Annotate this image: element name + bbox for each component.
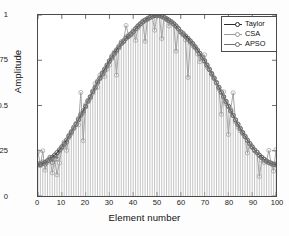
y-tick-label: 0.5 bbox=[0, 102, 8, 110]
figure: 1 0.75 0.5 0.25 0 0 10 20 30 40 50 60 70… bbox=[0, 0, 289, 236]
y-tick-label: 0 bbox=[0, 193, 8, 201]
legend-label: Taylor bbox=[242, 19, 265, 29]
legend: Taylor CSA APSO bbox=[221, 16, 277, 52]
legend-item-apso[interactable]: APSO bbox=[224, 39, 274, 49]
y-axis-label: Amplitude bbox=[12, 17, 23, 127]
legend-label: CSA bbox=[242, 29, 260, 39]
x-tick-label: 100 bbox=[262, 199, 289, 207]
x-axis-label: Element number bbox=[0, 212, 289, 223]
y-tick-label: 0.75 bbox=[0, 56, 8, 64]
legend-swatch-taylor bbox=[224, 19, 242, 29]
legend-item-taylor[interactable]: Taylor bbox=[224, 19, 274, 29]
legend-swatch-csa bbox=[224, 29, 242, 39]
legend-item-csa[interactable]: CSA bbox=[224, 29, 274, 39]
legend-swatch-apso bbox=[224, 39, 242, 49]
y-tick-label: 1 bbox=[0, 11, 8, 19]
y-tick-label: 0.25 bbox=[0, 147, 8, 155]
legend-label: APSO bbox=[242, 39, 266, 49]
